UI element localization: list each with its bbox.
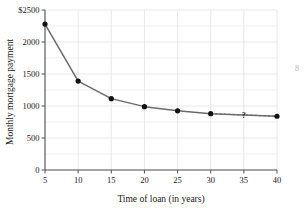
data-line-solid	[45, 24, 277, 116]
y-axis-tick-labels: 0500100015002000$2500	[18, 5, 39, 175]
page-number-artifact: 8	[295, 64, 299, 73]
data-point-20	[142, 104, 147, 109]
y-tick-label-1000: 1000	[23, 101, 40, 111]
data-point-5	[42, 21, 47, 26]
data-point-15	[109, 96, 114, 101]
x-tick-label-5: 5	[43, 175, 47, 185]
x-axis-tick-labels: 510152025303540	[43, 175, 281, 185]
y-axis-title: Monthly mortgage payment	[5, 39, 15, 145]
y-tick-label-0: 0	[35, 165, 39, 175]
data-point-30	[208, 111, 213, 116]
data-point-25	[175, 108, 180, 113]
horizontal-gridlines	[45, 10, 277, 170]
x-tick-label-35: 35	[240, 175, 249, 185]
x-axis-title: Time of loan (in years)	[117, 194, 204, 205]
y-tick-label-2000: 2000	[23, 37, 40, 47]
x-tick-label-30: 30	[206, 175, 215, 185]
mortgage-payment-line-chart: 0500100015002000$2500 510152025303540 ? …	[0, 0, 307, 208]
data-point-10	[76, 78, 81, 83]
x-tick-label-25: 25	[173, 175, 182, 185]
x-tick-label-40: 40	[273, 175, 282, 185]
chart-figure: 0500100015002000$2500 510152025303540 ? …	[0, 0, 307, 208]
x-tick-label-20: 20	[140, 175, 149, 185]
y-tick-label-500: 500	[27, 133, 40, 143]
x-tick-label-15: 15	[107, 175, 116, 185]
y-tick-label-1500: 1500	[23, 69, 40, 79]
unknown-value-question-mark: ?	[242, 111, 246, 120]
data-point-40	[274, 114, 279, 119]
x-tick-label-10: 10	[74, 175, 83, 185]
y-tick-label-2500: $2500	[18, 5, 39, 15]
